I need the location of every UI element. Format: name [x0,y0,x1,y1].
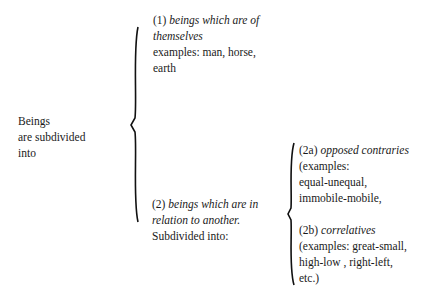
root-label: Beings are subdivided into [18,113,85,161]
node-1-title-cont: themselves [153,28,259,44]
node-2b-title: correlatives [321,224,376,236]
root-line: into [18,145,85,161]
root-line: are subdivided [18,129,85,145]
node-1-examples-cont: earth [153,60,259,76]
node-1-examples: examples: man, horse, [153,44,259,60]
node-1-number: (1) [153,14,166,26]
node-2b-line: etc.) [299,270,407,286]
root-line: Beings [18,113,85,129]
node-2a-line: immobile-mobile, [299,190,409,206]
node-2a-line: equal-unequal, [299,174,409,190]
node-2-title: beings which are in [168,198,258,210]
node-1: (1) beings which are of themselves examp… [153,12,259,76]
node-2-note: Subdivided into: [152,228,258,244]
brace-root [131,27,138,222]
node-2a: (2a) opposed contraries (examples: equal… [299,142,409,206]
node-2b-line: high-low , right-left, [299,254,407,270]
brace-2 [288,143,294,285]
node-2b-line: (examples: great-small, [299,238,407,254]
node-1-title: beings which are of [169,14,259,26]
node-2-title-cont: relation to another. [152,212,258,228]
node-2a-number: (2a) [299,144,318,156]
node-2: (2) beings which are in relation to anot… [152,196,258,244]
node-2a-line: (examples: [299,158,409,174]
node-2-number: (2) [152,198,165,210]
node-2b: (2b) correlatives (examples: great-small… [299,222,407,286]
node-2b-number: (2b) [299,224,318,236]
node-2a-title: opposed contraries [320,144,408,156]
